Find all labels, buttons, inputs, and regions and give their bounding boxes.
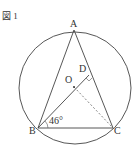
point-b: B [29, 126, 36, 136]
right-angle-mark [86, 78, 92, 81]
segment-oc [74, 87, 113, 128]
segment-bd [38, 75, 89, 128]
side-ac [74, 30, 113, 128]
center-o [73, 86, 75, 88]
point-d: D [79, 64, 86, 74]
point-a: A [70, 19, 77, 29]
point-o: O [65, 75, 72, 85]
point-c: C [114, 126, 121, 136]
angle-label: 46° [49, 116, 63, 126]
angle-arc [45, 121, 48, 128]
